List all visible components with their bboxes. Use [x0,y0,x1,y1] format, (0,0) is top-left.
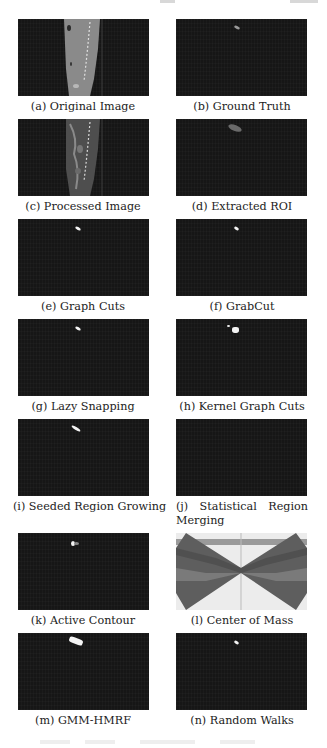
image-processed [18,119,149,196]
cropped-text-line [0,0,327,6]
image-kernel-graph-cuts [176,319,307,396]
caption-e: (e) Graph Cuts [13,300,153,314]
caption-g: (g) Lazy Snapping [13,400,153,414]
image-seeded-region-growing [18,419,149,496]
segmentation-mask-small [227,325,230,327]
caption-m: (m) GMM-HMRF [13,714,153,728]
figure-caption-cropped [40,740,290,744]
segmentation-mask [232,327,239,333]
caption-a: (a) Original Image [13,100,153,114]
caption-k: (k) Active Contour [13,614,153,628]
image-graph-cuts [18,219,149,296]
image-random-walks [176,633,307,710]
spine-ct-slice [18,19,149,96]
image-lazy-snapping [18,319,149,396]
center-of-mass-plot [176,533,307,610]
caption-i: (i) Seeded Region Growing [13,500,153,514]
caption-j: (j) Statistical Region Merging [176,500,308,528]
image-statistical-region-merging [176,419,307,496]
caption-b: (b) Ground Truth [172,100,312,114]
processed-ct-slice [18,119,149,196]
caption-h: (h) Kernel Graph Cuts [172,400,312,414]
image-center-of-mass [176,533,307,610]
caption-f: (f) GrabCut [172,300,312,314]
image-ground-truth [176,19,307,96]
caption-d: (d) Extracted ROI [172,200,312,214]
image-original [18,19,149,96]
caption-n: (n) Random Walks [172,714,312,728]
contour-edge [74,542,79,545]
image-grabcut [176,219,307,296]
image-active-contour [18,533,149,610]
image-gmm-hmrf [18,633,149,710]
caption-c: (c) Processed Image [13,200,153,214]
caption-l: (l) Center of Mass [172,614,312,628]
image-extracted-roi [176,119,307,196]
